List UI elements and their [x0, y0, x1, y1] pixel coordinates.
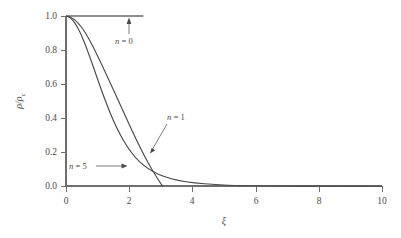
n5-annotation-label: n = 5	[69, 161, 87, 171]
x-tick-label-4: 8	[317, 196, 322, 206]
y-tick-label-1: 0.2	[45, 147, 57, 157]
chart-figure: 0.0 0.2 0.4 0.6 0.8 1.0 0 2 4 6 8 10 ξ ρ…	[0, 0, 401, 238]
x-tick-label-1: 2	[127, 196, 132, 206]
x-tick-label-5: 10	[377, 196, 387, 206]
n1-annotation: n = 1	[150, 112, 185, 154]
n0-annotation-label: n = 0	[115, 36, 133, 46]
x-axis-title: ξ	[222, 215, 227, 227]
y-tick-label-5: 1.0	[45, 11, 57, 21]
y-axis-ticks	[61, 16, 66, 186]
x-tick-label-3: 6	[254, 196, 259, 206]
n1-annotation-label: n = 1	[167, 112, 185, 122]
y-tick-label-3: 0.6	[45, 79, 57, 89]
y-tick-label-2: 0.4	[45, 113, 57, 123]
y-tick-label-4: 0.8	[45, 45, 57, 55]
y-tick-label-0: 0.0	[45, 181, 57, 191]
x-tick-label-0: 0	[64, 196, 69, 206]
y-axis-title-subscript: c	[19, 92, 27, 96]
n0-annotation: n = 0	[115, 18, 133, 47]
x-axis-ticks	[66, 186, 382, 192]
curve-n-5	[66, 16, 382, 186]
x-tick-label-2: 4	[190, 196, 195, 206]
n5-annotation: n = 5	[69, 161, 128, 171]
y-axis-title: ρ/ρc	[13, 92, 27, 109]
svg-text:ρ/ρc: ρ/ρc	[13, 92, 27, 109]
y-axis-title-main: ρ/ρ	[13, 96, 24, 110]
polytrope-density-plot: 0.0 0.2 0.4 0.6 0.8 1.0 0 2 4 6 8 10 ξ ρ…	[0, 0, 401, 238]
